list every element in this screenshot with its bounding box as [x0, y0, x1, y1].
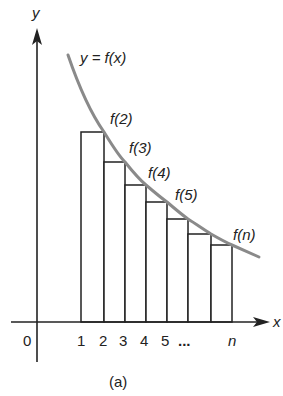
figure-canvas: y x y = f(x) f(2) f(3) f(4) f(5) f(n) 0 … [0, 0, 283, 396]
rect-5 [167, 219, 188, 322]
rect-n [211, 245, 232, 322]
x-tick-2: 2 [99, 332, 107, 349]
x-axis-label: x [272, 313, 281, 330]
origin-label: 0 [23, 332, 31, 349]
inscribed-rectangles [81, 132, 232, 322]
curve-label: y = f(x) [79, 49, 126, 66]
rect-6 [188, 234, 211, 322]
x-tick-4: 4 [140, 332, 148, 349]
value-label-f2: f(2) [110, 110, 133, 127]
x-tick-5: 5 [161, 332, 169, 349]
value-label-f5: f(5) [175, 186, 198, 203]
rect-1 [81, 132, 104, 322]
x-tick-n: n [228, 332, 236, 349]
rect-2 [104, 162, 125, 322]
rect-4 [146, 202, 167, 322]
value-label-f3: f(3) [129, 139, 152, 156]
rect-3 [125, 185, 146, 322]
value-label-f4: f(4) [148, 164, 171, 181]
figure-caption: (a) [109, 373, 127, 390]
x-tick-ellipsis: ... [178, 332, 191, 349]
x-tick-3: 3 [119, 332, 127, 349]
value-label-fn: f(n) [233, 226, 256, 243]
x-tick-1: 1 [77, 332, 85, 349]
y-axis-label: y [31, 4, 41, 21]
